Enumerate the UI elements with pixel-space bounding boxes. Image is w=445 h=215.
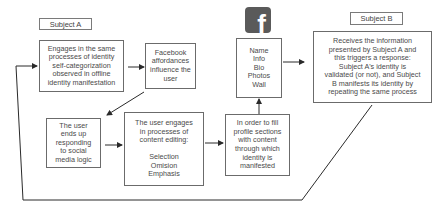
subject-b-label: Subject B	[350, 12, 403, 25]
facebook-logo-icon: f	[245, 7, 271, 33]
subject-a-label: Subject A	[39, 18, 92, 30]
social-logic-box: The user ends up responding to social me…	[46, 118, 101, 168]
content-editing-box: The user engages in processes of content…	[124, 112, 204, 186]
fill-profile-box: In order to fill profile sections with c…	[225, 114, 290, 176]
affordances-box: Facebook affordances influence the user	[145, 43, 196, 89]
profile-sections-box: Name Info Bio Photos Wall	[236, 38, 282, 98]
engages-box: Engages in the same processes of identit…	[39, 40, 124, 92]
subject-b-response-box: Receives the information presented by Su…	[313, 31, 432, 103]
